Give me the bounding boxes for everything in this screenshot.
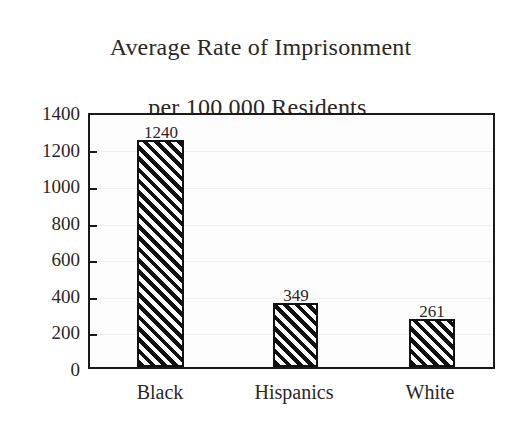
- chart-title-line-1: Average Rate of Imprisonment: [0, 32, 521, 62]
- y-tick-label-1400: 1400: [8, 104, 80, 123]
- y-tick-label-0: 0: [8, 360, 80, 379]
- plot-area: 1240 349 261: [88, 113, 495, 369]
- y-tick-label-1200: 1200: [8, 141, 80, 160]
- y-tick-label-400: 400: [8, 287, 80, 306]
- x-tick-label-black: Black: [98, 380, 222, 404]
- bar-value-black: 1240: [127, 124, 195, 141]
- y-tick-1000: [90, 188, 97, 190]
- y-tick-label-800: 800: [8, 214, 80, 233]
- y-tick-800: [90, 225, 97, 227]
- x-axis-labels: Black Hispanics White: [88, 380, 495, 414]
- x-tick-label-hispanics: Hispanics: [232, 380, 356, 404]
- y-tick-600: [90, 261, 97, 263]
- y-tick-400: [90, 298, 97, 300]
- y-tick-label-200: 200: [8, 323, 80, 342]
- y-tick-label-1000: 1000: [8, 177, 80, 196]
- chart-figure: Average Rate of Imprisonment per 100,000…: [0, 0, 521, 431]
- y-axis-labels: 1400 1200 1000 800 600 400 200 0: [0, 113, 80, 369]
- x-tick-label-white: White: [368, 380, 492, 404]
- bar-hispanics: [273, 303, 318, 367]
- y-tick-label-600: 600: [8, 250, 80, 269]
- y-tick-200: [90, 334, 97, 336]
- bar-black: [137, 140, 184, 367]
- y-tick-1200: [90, 151, 97, 153]
- bar-value-white: 261: [398, 303, 466, 320]
- bar-value-hispanics: 349: [262, 287, 330, 304]
- bar-white: [409, 319, 455, 367]
